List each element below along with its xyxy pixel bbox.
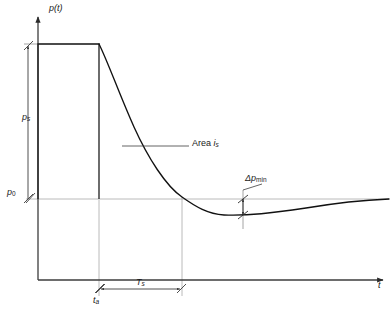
blast-wave-diagram: p(t) ps p0 Area is Δpmin Ts ta t [0,0,391,314]
diagram-canvas [0,0,391,314]
guide-lines [24,44,389,296]
ambient-pressure-tick [26,193,35,203]
arrival-time-label: ta [93,296,99,306]
negative-peak-leader [243,184,262,190]
peak-overpressure-label: ps [22,113,30,123]
impulse-area-label: Area is [192,139,219,149]
arrival-time-tick [95,284,104,293]
positive-duration-label: Ts [136,278,145,288]
y-axis-label: p(t) [49,4,63,13]
x-axis-label: t [378,281,381,290]
negative-peak-label: Δpmin [245,174,267,184]
ambient-pressure-label: p0 [7,188,16,198]
equivalent-rectangular-pulse [38,44,99,199]
